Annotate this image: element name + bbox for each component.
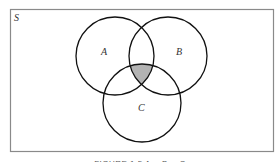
figure-caption: FIGURE 1.5 A ∩ B ∩ C (94, 159, 186, 162)
set-b-label: B (176, 46, 182, 57)
set-c-label: C (138, 102, 145, 113)
universe-label: S (14, 12, 19, 23)
set-a-label: A (100, 46, 108, 57)
venn-diagram: S A B C FIGURE 1.5 A ∩ B ∩ C (0, 0, 280, 162)
